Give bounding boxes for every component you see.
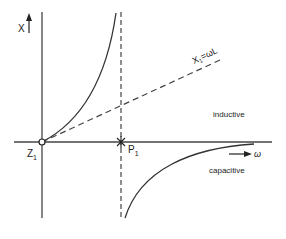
x-axis-label: ω — [254, 149, 261, 159]
omega-arrowhead-icon — [244, 151, 252, 157]
asymptote-label: X1=ωL — [191, 45, 220, 66]
reactance-diagram: X X1=ωL Z1 P1 inductive capacitive ω — [0, 0, 286, 239]
pole-label: P1 — [128, 144, 139, 157]
inductive-label: inductive — [213, 110, 245, 119]
x-arrowhead-icon — [26, 13, 32, 21]
y-axis-label: X — [18, 23, 25, 34]
capacitive-label: capacitive — [209, 166, 245, 175]
zero-marker — [39, 139, 45, 145]
zero-label: Z1 — [27, 148, 37, 161]
reactance-line — [42, 60, 220, 142]
inductive-curve — [42, 13, 116, 142]
capacitive-curve — [125, 144, 254, 218]
